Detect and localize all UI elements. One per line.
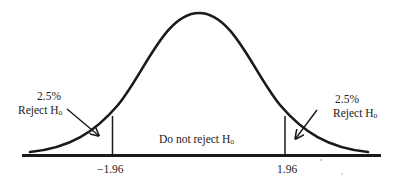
left-critical-value: −1.96 (97, 163, 124, 176)
center-region-label-text: Do not reject H (159, 133, 230, 145)
center-region-label: Do not reject Ho (159, 133, 234, 148)
left-tail-label-subscript: o (59, 108, 63, 117)
speck (320, 159, 322, 161)
left-arrow-icon (67, 109, 98, 135)
right-critical-value: 1.96 (277, 163, 297, 176)
right-tail-label-subscript: o (374, 111, 378, 120)
right-tail-label-text: Reject H (333, 107, 374, 119)
center-region-label-subscript: o (230, 137, 234, 146)
right-tail-percent: 2.5% (335, 93, 359, 106)
left-tail-percent: 2.5% (37, 90, 61, 103)
right-tail-label: Reject Ho (333, 107, 377, 122)
left-tail-label: Reject Ho (18, 104, 62, 119)
left-tail-label-text: Reject H (18, 104, 59, 116)
speck (341, 173, 343, 175)
bell-curve (30, 13, 368, 152)
